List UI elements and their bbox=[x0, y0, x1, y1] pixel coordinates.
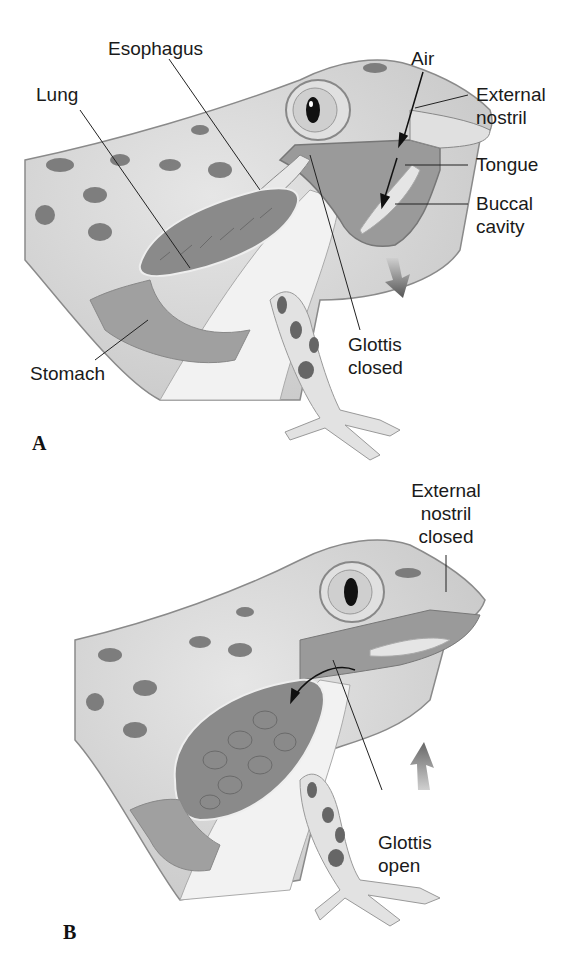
eye-b bbox=[320, 562, 384, 622]
label-nostril-line1: External bbox=[400, 480, 492, 502]
frog-illustration-b bbox=[0, 480, 585, 964]
label-nostril-line3: closed bbox=[400, 526, 492, 548]
label-air: Air bbox=[411, 48, 434, 70]
label-glottis-line2-b: open bbox=[378, 855, 420, 877]
label-esophagus: Esophagus bbox=[108, 38, 203, 60]
label-tongue: Tongue bbox=[476, 154, 538, 176]
label-nostril-line2: nostril bbox=[400, 503, 492, 525]
panel-b: External nostril closed Glottis open B bbox=[0, 480, 585, 964]
label-external-nostril-line2: nostril bbox=[476, 107, 527, 129]
movement-arrow-up-icon bbox=[410, 742, 434, 790]
panel-letter-a: A bbox=[32, 432, 46, 455]
label-glottis-line1-b: Glottis bbox=[378, 832, 432, 854]
label-buccal-line2: cavity bbox=[476, 216, 525, 238]
eye bbox=[286, 80, 350, 140]
panel-letter-b: B bbox=[63, 921, 76, 944]
label-buccal-line1: Buccal bbox=[476, 193, 533, 215]
label-lung: Lung bbox=[36, 84, 78, 106]
label-stomach: Stomach bbox=[30, 363, 105, 385]
label-glottis-line2: closed bbox=[348, 357, 403, 379]
panel-a: Esophagus Lung Air External nostril Tong… bbox=[0, 0, 585, 470]
label-glottis-line1: Glottis bbox=[348, 334, 402, 356]
label-external-nostril-line1: External bbox=[476, 84, 546, 106]
